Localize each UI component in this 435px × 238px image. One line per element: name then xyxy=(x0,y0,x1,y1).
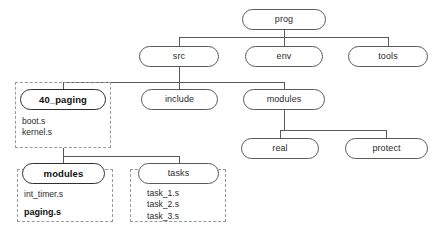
edge-prog-to-children xyxy=(179,30,388,46)
directory-tree-diagram: boot.s kernel.s int_timer.s paging.s tas… xyxy=(0,0,435,238)
node-real[interactable]: real xyxy=(241,138,319,159)
file-list-40-paging: boot.s kernel.s xyxy=(22,116,52,139)
node-env-modules[interactable]: modules xyxy=(243,89,325,110)
file-item: task_1.s xyxy=(147,188,179,199)
file-list-sub-modules: int_timer.s paging.s xyxy=(24,189,63,219)
file-item-highlighted: paging.s xyxy=(24,207,63,218)
node-tasks[interactable]: tasks xyxy=(138,163,219,184)
node-env[interactable]: env xyxy=(245,46,323,67)
node-include[interactable]: include xyxy=(141,89,218,110)
node-tools[interactable]: tools xyxy=(348,46,428,67)
file-list-tasks: task_1.s task_2.s task_3.s xyxy=(147,188,179,222)
node-sub-modules[interactable]: modules xyxy=(22,163,105,184)
file-item: int_timer.s xyxy=(24,189,63,200)
node-40-paging[interactable]: 40_paging xyxy=(20,89,106,110)
node-prog[interactable]: prog xyxy=(242,9,326,30)
node-protect[interactable]: protect xyxy=(345,138,428,159)
file-item: task_3.s xyxy=(147,211,179,222)
edge-modules-to-children xyxy=(280,110,386,138)
file-item: boot.s xyxy=(22,116,52,127)
file-item: kernel.s xyxy=(22,127,52,138)
file-item-spacer xyxy=(24,200,63,207)
edge-paging-to-children xyxy=(63,148,179,163)
node-src[interactable]: src xyxy=(139,46,219,67)
file-item: task_2.s xyxy=(147,199,179,210)
